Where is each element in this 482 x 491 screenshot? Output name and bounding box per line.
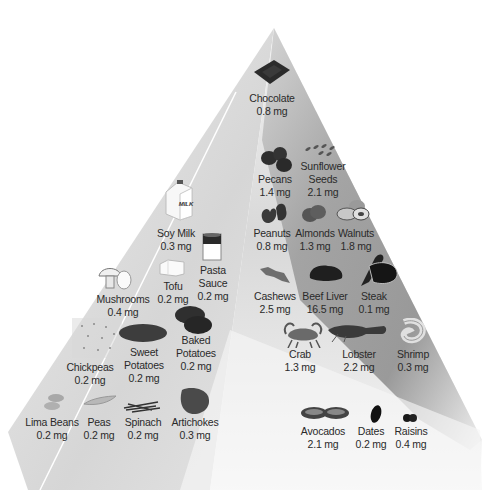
item-value: 2.1 mg [301, 438, 345, 451]
item-shrimp: Shrimp 0.3 mg [397, 348, 429, 374]
item-name-line2: Sauce [198, 277, 229, 290]
pea-pod-icon [82, 394, 118, 408]
lima-beans-icon [42, 392, 66, 412]
item-name: Peas [84, 416, 115, 429]
milk-carton-icon: MILK [160, 180, 196, 222]
item-value: 0.2 mg [356, 438, 387, 451]
item-name: Soy Milk [157, 227, 195, 240]
item-value: 0.2 mg [125, 429, 162, 442]
item-value: 1.8 mg [338, 240, 374, 253]
item-almonds: Almonds 1.3 mg [295, 227, 334, 253]
item-mushrooms: Mushrooms 0.4 mg [96, 293, 149, 319]
item-name-line2: Seeds [301, 173, 346, 186]
item-value: 2.2 mg [342, 361, 376, 374]
item-lima-beans: Lima Beans 0.2 mg [25, 416, 78, 442]
item-name: Cashews [254, 290, 296, 303]
item-name: Avocados [301, 425, 345, 438]
item-raisins: Raisins 0.4 mg [394, 425, 427, 451]
tofu-icon [158, 258, 186, 278]
pecans-icon [260, 146, 294, 174]
item-name: Pasta [198, 264, 229, 277]
item-baked-potatoes: Baked Potatoes 0.2 mg [176, 334, 216, 373]
chickpeas-icon [72, 318, 122, 358]
spinach-icon [122, 398, 162, 414]
item-name: Chocolate [249, 92, 294, 105]
item-name: Mushrooms [96, 293, 149, 306]
item-lobster: Lobster 2.2 mg [342, 348, 376, 374]
item-name: Raisins [394, 425, 427, 438]
baked-potato-icon [174, 305, 214, 335]
lobster-icon [326, 320, 390, 344]
item-value: 16.5 mg [302, 303, 347, 316]
item-spinach: Spinach 0.2 mg [125, 416, 162, 442]
item-name: Lima Beans [25, 416, 78, 429]
item-chickpeas: Chickpeas 0.2 mg [66, 361, 113, 387]
item-value: 0.2 mg [25, 429, 78, 442]
item-name: Steak [359, 290, 390, 303]
item-name: Lobster [342, 348, 376, 361]
item-value: 0.2 mg [158, 293, 189, 306]
svg-text:MILK: MILK [179, 201, 194, 207]
item-value: 0.1 mg [359, 303, 390, 316]
item-value: 2.1 mg [301, 186, 346, 199]
sunflower-seeds-icon [303, 143, 343, 157]
item-value: 1.4 mg [258, 186, 292, 199]
item-pasta-sauce: Pasta Sauce 0.2 mg [198, 264, 229, 303]
item-value: 1.3 mg [295, 240, 334, 253]
item-artichokes: Artichokes 0.3 mg [171, 416, 218, 442]
mushrooms-icon [97, 264, 133, 292]
item-name: Crab [285, 348, 316, 361]
sweet-potato-icon [118, 322, 168, 344]
peanuts-icon [258, 200, 292, 226]
item-value: 0.8 mg [249, 105, 294, 118]
beef-liver-icon [306, 262, 346, 284]
item-crab: Crab 1.3 mg [285, 348, 316, 374]
item-name: Sweet [124, 346, 164, 359]
item-value: 0.4 mg [96, 306, 149, 319]
item-name: Dates [356, 425, 387, 438]
item-value: 0.4 mg [394, 438, 427, 451]
item-tofu: Tofu 0.2 mg [158, 280, 189, 306]
item-dates: Dates 0.2 mg [356, 425, 387, 451]
item-walnuts: Walnuts 1.8 mg [338, 227, 374, 253]
item-steak: Steak 0.1 mg [359, 290, 390, 316]
item-name: Chickpeas [66, 361, 113, 374]
item-value: 0.2 mg [198, 290, 229, 303]
almonds-icon [300, 203, 328, 225]
item-value: 0.8 mg [253, 240, 290, 253]
artichoke-icon [176, 386, 212, 416]
item-value: 0.3 mg [171, 429, 218, 442]
item-name: Baked [176, 334, 216, 347]
item-sunflower-seeds: Sunflower Seeds 2.1 mg [301, 160, 346, 199]
item-value: 0.3 mg [397, 361, 429, 374]
steak-icon [355, 252, 399, 288]
item-value: 0.2 mg [84, 429, 115, 442]
avocado-icon [300, 404, 350, 422]
item-avocados: Avocados 2.1 mg [301, 425, 345, 451]
item-peas: Peas 0.2 mg [84, 416, 115, 442]
item-name: Shrimp [397, 348, 429, 361]
item-name: Pecans [258, 173, 292, 186]
item-name: Peanuts [253, 227, 290, 240]
food-pyramid: MILK [0, 0, 482, 491]
item-name-line2: Potatoes [176, 347, 216, 360]
item-value: 0.2 mg [124, 372, 164, 385]
item-name: Sunflower [301, 160, 346, 173]
date-fruit-icon [369, 402, 383, 424]
item-name: Tofu [158, 280, 189, 293]
walnuts-icon [335, 198, 371, 224]
can-icon [201, 232, 223, 262]
item-value: 0.3 mg [157, 240, 195, 253]
item-sweet-potatoes: Sweet Potatoes 0.2 mg [124, 346, 164, 385]
item-name: Almonds [295, 227, 334, 240]
chocolate-bar-icon [252, 58, 292, 86]
shrimp-icon [396, 318, 430, 346]
item-soy-milk: Soy Milk 0.3 mg [157, 227, 195, 253]
item-value: 2.5 mg [254, 303, 296, 316]
item-name: Walnuts [338, 227, 374, 240]
item-cashews: Cashews 2.5 mg [254, 290, 296, 316]
item-name-line2: Potatoes [124, 359, 164, 372]
item-value: 1.3 mg [285, 361, 316, 374]
item-name: Spinach [125, 416, 162, 429]
item-name: Artichokes [171, 416, 218, 429]
